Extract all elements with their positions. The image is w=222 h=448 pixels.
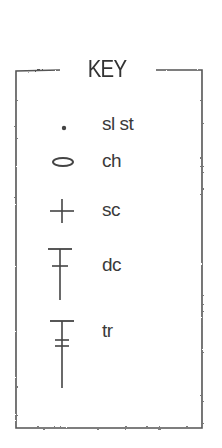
dc-stitch-icon xyxy=(46,246,74,302)
tr-stitch-icon xyxy=(48,318,76,390)
key-item-label-ch: ch xyxy=(102,150,121,172)
oval-icon xyxy=(50,155,76,169)
key-item-label-sc: sc xyxy=(102,199,120,221)
key-item-label-slst: sl st xyxy=(102,113,133,135)
key-title: KEY xyxy=(86,55,129,83)
key-item-label-dc: dc xyxy=(102,254,121,276)
dot-icon xyxy=(58,122,70,134)
plus-icon xyxy=(48,197,76,225)
key-item-label-tr: tr xyxy=(102,320,113,342)
